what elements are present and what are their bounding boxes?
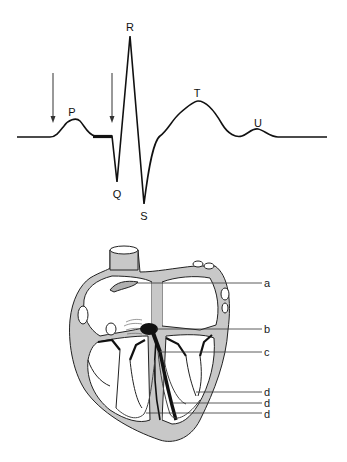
label-c: c [264,346,270,358]
vessel-opening [222,303,228,313]
label-p-wave: P [68,106,75,118]
vessel-opening [110,246,138,254]
label-s-wave: S [140,210,147,222]
ecg-trace: P Q R S T U [17,21,327,222]
label-d: d [264,408,270,420]
left-atrium-chamber [162,277,218,330]
atrioventricular-node [140,323,158,335]
label-a: a [264,277,271,289]
label-r-wave: R [126,21,134,33]
label-q-wave: Q [113,188,122,200]
diagram-canvas: P Q R S T U [0,0,347,462]
vessel-opening [221,288,229,300]
arrow-down-icon [110,73,115,123]
heart-diagram: a b c d d d [70,246,271,441]
label-u-wave: U [254,117,262,129]
label-t-wave: T [194,87,201,99]
ecg-waveform [17,36,327,204]
arrow-down-icon [51,73,56,123]
vessel-opening [78,306,88,324]
label-b: b [264,323,270,335]
left-ventricle-chamber [162,335,214,424]
atrial-opening [106,323,116,335]
vessel-opening [193,261,203,267]
vessel-opening [204,263,214,269]
